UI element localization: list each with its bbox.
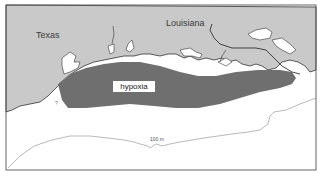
label-hypoxia: hypoxia	[113, 81, 155, 92]
label-texas: Texas	[36, 30, 60, 40]
label-100m-contour: 100 m	[150, 136, 164, 142]
label-uncertain-boundary: ?	[55, 100, 58, 106]
label-louisiana: Louisiana	[166, 18, 205, 28]
hypoxia-map	[0, 0, 323, 177]
